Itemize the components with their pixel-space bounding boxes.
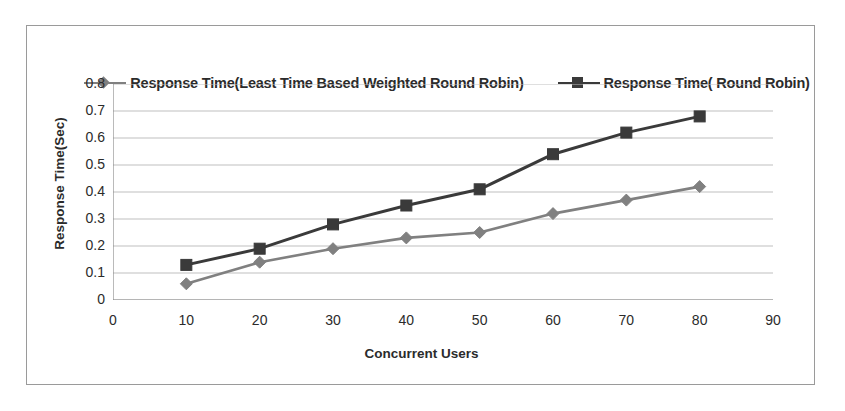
x-tick-label: 40: [384, 312, 428, 328]
x-tick-label: 0: [91, 312, 135, 328]
y-tick-label: 0.6: [59, 129, 105, 145]
y-tick-label: 0.3: [59, 210, 105, 226]
y-tick-label: 0.7: [59, 102, 105, 118]
y-tick-label: 0.8: [59, 75, 105, 91]
chart-figure: Response Time(Least Time Based Weighted …: [0, 0, 845, 411]
x-tick-label: 80: [678, 312, 722, 328]
y-tick-label: 0.4: [59, 183, 105, 199]
y-tick-label: 0.2: [59, 237, 105, 253]
x-tick-label: 30: [311, 312, 355, 328]
chart-frame: Response Time(Least Time Based Weighted …: [26, 25, 815, 385]
y-tick-label: 0: [59, 291, 105, 307]
x-tick-label: 10: [164, 312, 208, 328]
x-tick-label: 90: [751, 312, 795, 328]
plot-area: 00.10.20.30.40.50.60.70.8 01020304050607…: [113, 84, 773, 300]
x-tick-label: 70: [604, 312, 648, 328]
x-tick-label: 50: [458, 312, 502, 328]
x-tick-label: 20: [238, 312, 282, 328]
x-axis-title: Concurrent Users: [27, 346, 816, 361]
x-tick-label: 60: [531, 312, 575, 328]
y-tick-label: 0.5: [59, 156, 105, 172]
y-tick-label: 0.1: [59, 264, 105, 280]
plot-canvas: [113, 84, 773, 300]
